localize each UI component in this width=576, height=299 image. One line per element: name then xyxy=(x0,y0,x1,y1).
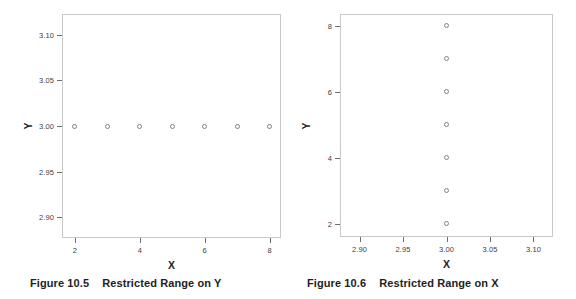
y-tick-mark xyxy=(57,126,62,127)
y-tick-label: 2.95 xyxy=(16,167,54,176)
figure-caption-10-5: Figure 10.5Restricted Range on Y xyxy=(30,277,221,289)
x-tick-mark xyxy=(533,237,534,242)
y-tick-mark xyxy=(57,172,62,173)
data-point xyxy=(202,124,207,129)
y-tick-mark xyxy=(57,80,62,81)
y-tick-label: 4 xyxy=(294,153,332,162)
y-axis-title-figure-10-6: Y xyxy=(300,122,312,129)
figure-caption-10-6: Figure 10.6Restricted Range on X xyxy=(307,277,499,289)
y-tick-mark xyxy=(335,224,340,225)
data-point xyxy=(267,124,272,129)
y-tick-mark xyxy=(335,92,340,93)
figure-caption-text-10-5: Restricted Range on Y xyxy=(102,277,221,289)
x-axis-title-figure-10-6: X xyxy=(443,258,450,270)
x-tick-label: 6 xyxy=(203,246,207,255)
figure-10-6: 2468 2.902.953.003.053.10 Y X Figure 10.… xyxy=(288,0,576,299)
figure-caption-text-10-6: Restricted Range on X xyxy=(379,277,498,289)
figure-10-5: 2.902.953.003.053.10 2468 Y X Figure 10.… xyxy=(0,0,288,299)
x-tick-mark xyxy=(360,237,361,242)
data-point xyxy=(170,124,175,129)
y-tick-label: 2.90 xyxy=(16,213,54,222)
y-tick-mark xyxy=(335,158,340,159)
x-tick-label: 4 xyxy=(138,246,142,255)
x-tick-mark xyxy=(403,237,404,242)
x-tick-label: 2.95 xyxy=(396,245,411,254)
x-tick-mark xyxy=(447,237,448,242)
x-tick-label: 3.10 xyxy=(526,245,541,254)
data-point xyxy=(235,124,240,129)
y-tick-mark xyxy=(57,35,62,36)
figure-caption-number-10-6: Figure 10.6 xyxy=(307,277,366,289)
x-axis-title-figure-10-5: X xyxy=(168,259,175,271)
x-tick-label: 8 xyxy=(268,246,272,255)
y-tick-label: 2 xyxy=(294,219,332,228)
x-tick-mark xyxy=(270,238,271,243)
data-point xyxy=(137,124,142,129)
x-tick-mark xyxy=(205,238,206,243)
x-tick-label: 2 xyxy=(73,246,77,255)
y-tick-mark xyxy=(57,217,62,218)
x-tick-label: 3.00 xyxy=(439,245,454,254)
data-point xyxy=(105,124,110,129)
y-tick-label: 8 xyxy=(294,21,332,30)
x-tick-mark xyxy=(140,238,141,243)
x-tick-mark xyxy=(490,237,491,242)
x-tick-label: 2.90 xyxy=(352,245,367,254)
y-tick-label: 6 xyxy=(294,87,332,96)
y-tick-label: 3.10 xyxy=(16,30,54,39)
y-tick-mark xyxy=(335,26,340,27)
x-tick-label: 3.05 xyxy=(482,245,497,254)
figure-caption-number-10-5: Figure 10.5 xyxy=(30,277,89,289)
y-tick-label: 3.05 xyxy=(16,76,54,85)
y-axis-title-figure-10-5: Y xyxy=(22,122,34,129)
x-tick-mark xyxy=(75,238,76,243)
